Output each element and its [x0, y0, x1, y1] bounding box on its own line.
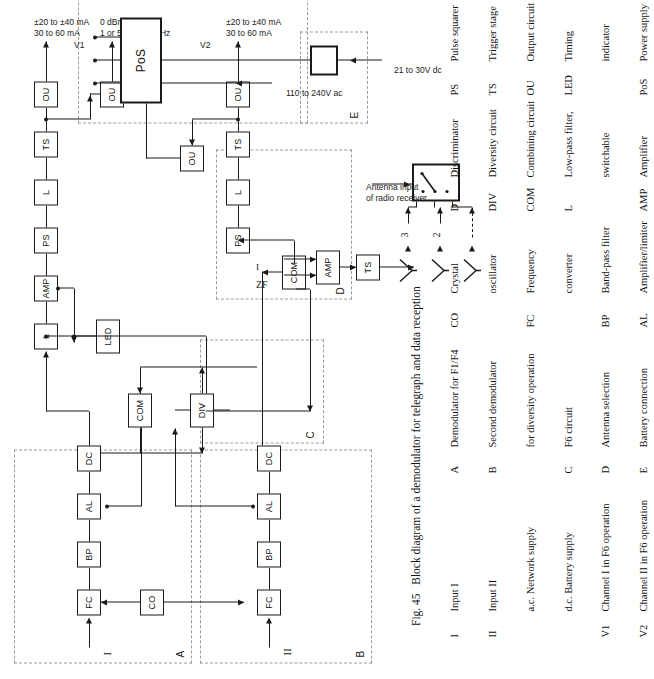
legend-text: F6 circuit: [563, 406, 574, 447]
legend-text: Frequency: [525, 249, 536, 293]
arrow-batt: [350, 57, 356, 63]
ch1-current-label-2: ±20 to ±40 mA: [34, 16, 89, 26]
legend-abbrev-left: COCrystal oscillator FCFrequency convert…: [424, 221, 654, 327]
legend-row: COCrystal: [449, 221, 462, 327]
wire-comc-ps-b: [238, 239, 294, 240]
wire-div-dc-a-up: [101, 452, 202, 453]
wire-bp-al-b: [269, 519, 270, 541]
wire-ou-b-tone-up: [146, 157, 180, 158]
legend-key: E: [638, 447, 651, 473]
wire-comc-out: [294, 240, 295, 263]
wire-batt-bottom: [338, 59, 382, 60]
arrow-to-l-a: [43, 351, 49, 357]
legend-row: ADemodulator for F1/F4: [449, 349, 462, 473]
antenna-3-label: 3: [400, 232, 410, 237]
wire-c-return-up2: [206, 410, 310, 411]
block-l2-a: L: [34, 179, 58, 205]
legend-text: Low-pass filter,: [563, 111, 574, 177]
legend-row: PSPulse squarer: [449, 2, 462, 95]
legend-text: Combining circuit: [525, 100, 536, 177]
arrow-input2: [266, 617, 272, 623]
arrow-ts-sw-d: [408, 264, 414, 270]
wire-al-b-to-div: [175, 428, 176, 506]
wire-dc-a-up: [46, 410, 89, 411]
legend-text: a.c. Network supply: [525, 526, 536, 611]
legend-text: Channel II in F6 operation: [638, 500, 649, 611]
arrow-v1: [87, 95, 93, 101]
legend-key: LED: [563, 61, 576, 95]
block-co: CO: [140, 589, 164, 615]
wire-pos-out-1: [96, 82, 120, 83]
wire-com-b-left: [140, 427, 141, 453]
arrow-ou-a-tone-out: [109, 41, 115, 47]
input-1-label: I: [102, 651, 112, 655]
wire-v2-up: [192, 118, 238, 119]
wire-dcb-to-comc: [262, 272, 263, 445]
group-label-d: D: [336, 287, 346, 294]
if-label: ZF: [256, 279, 268, 289]
wire-l-a-down-c: [46, 335, 206, 336]
block-pos: PoS: [120, 17, 162, 103]
legend-abbrev-right: PSPulse squarer TSTrigger stage OUOutput…: [424, 2, 654, 95]
legend-letters: ADemodulator for F1/F4 BSecond demodulat…: [424, 349, 654, 473]
legend-text: Amplifier: [638, 136, 649, 177]
legend-key: C: [563, 447, 576, 473]
ch2-current-label-1: 30 to 60 mA: [226, 27, 272, 37]
block-ou-b-tone: OU: [180, 145, 204, 171]
legend-text: Pulse squarer: [449, 5, 460, 61]
arrow-input1: [86, 617, 92, 623]
pos-terminal-3: [93, 35, 97, 39]
wire-al-dc-b: [269, 471, 270, 493]
arrow-div-dc-b: [199, 367, 205, 373]
legend-text: indicator: [600, 24, 611, 61]
legend-text: converter: [563, 253, 574, 293]
arrow-co-fc-a: [101, 599, 107, 605]
legend-key: FC: [525, 293, 538, 327]
legend-key: DIV: [487, 177, 500, 211]
wire-div-dc-b-down: [202, 366, 257, 367]
legend-row: DAntenna selection: [600, 349, 613, 473]
wire-com-b-right-down: [140, 366, 202, 367]
legend-row: IIInput II: [487, 500, 500, 637]
wire-al-b-up: [175, 505, 251, 506]
legend-key: V1: [600, 611, 613, 637]
arrow-v2: [189, 139, 195, 145]
legend-row: LLow-pass filter,: [563, 100, 576, 211]
arrow-ou-b-out: [235, 41, 241, 47]
legend-text: Power supply: [638, 4, 649, 61]
wire-mains: [162, 82, 272, 83]
wire-input2: [269, 621, 270, 647]
wire-l-ts-b: [238, 157, 239, 179]
wire-pos-out-3: [96, 36, 120, 37]
antenna-input-label-2: of radio receiver: [366, 192, 427, 202]
v2-label: V2: [200, 39, 210, 49]
wire-div-stub-up: [175, 409, 190, 410]
legend-row: BSecond demodulator: [487, 349, 500, 473]
arrow-feed-3: [405, 207, 411, 213]
legend-text: Trigger stage: [487, 6, 498, 61]
legend-row: EBattery connection: [638, 349, 651, 473]
arrow-i-in: [310, 256, 316, 262]
figure-number: Fig. 45: [410, 593, 422, 626]
legend-key: AL: [638, 293, 651, 327]
legend-text: Output circuit: [525, 2, 536, 61]
v1-label: V1: [74, 39, 84, 49]
block-al-a: AL: [77, 493, 101, 519]
legend-abbrev-mid: DDiscriminator DIVDiversity circuit COMC…: [424, 100, 654, 211]
input-2-label: II: [282, 648, 292, 655]
legend-text: oscillator: [487, 254, 498, 293]
wire-ps-l2-a: [46, 205, 47, 227]
legend-key: B: [487, 447, 500, 473]
junction-al-b: [251, 504, 255, 508]
block-fc-b: FC: [257, 589, 281, 615]
group-label-e: E: [350, 111, 360, 118]
legend-row: IInput I: [449, 500, 462, 637]
legend-text: for diversity operation: [525, 353, 536, 447]
legend-key: BP: [600, 293, 613, 327]
arrow-ou-a-out: [43, 41, 49, 47]
legend-text: Battery connection: [638, 367, 649, 447]
arrow-zf-in: [310, 272, 316, 278]
block-bp-b: BP: [257, 541, 281, 567]
ch2-current-label-2: ±20 to ±40 mA: [226, 16, 281, 26]
